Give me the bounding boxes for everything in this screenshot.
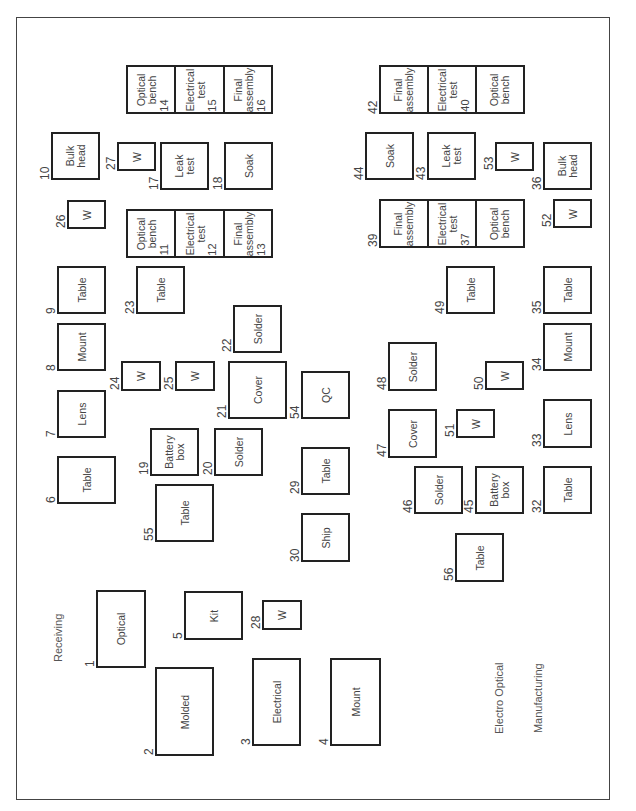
station-11[interactable]: Optical bench 11 (128, 211, 176, 256)
station-36[interactable]: Bulk head (543, 142, 592, 190)
station-20[interactable]: Solder (214, 428, 263, 476)
station-label: Kit (208, 609, 219, 621)
station-label: Electrical test (437, 202, 459, 245)
station-label: Solder (407, 351, 418, 381)
station-50[interactable]: W (485, 361, 524, 390)
station-label: Final assembly (233, 67, 255, 111)
station-27[interactable]: W (117, 142, 156, 171)
station-number-30: 30 (288, 549, 302, 562)
station-optical-bench-top[interactable]: Optical bench (477, 67, 523, 112)
station-53[interactable]: W (495, 142, 534, 171)
station-label: Optical bench (489, 73, 511, 106)
station-number-25: 25 (162, 377, 176, 390)
station-49[interactable]: Table (446, 266, 495, 314)
station-label: Molded (179, 694, 190, 728)
station-1[interactable]: Optical (96, 590, 146, 668)
station-4[interactable]: Mount (330, 658, 381, 746)
station-55[interactable]: Table (155, 484, 214, 542)
station-19[interactable]: Battery box (150, 428, 199, 476)
station-number-27: 27 (104, 157, 118, 170)
station-22[interactable]: Solder (233, 305, 282, 353)
station-label: Table (562, 477, 573, 502)
station-37[interactable]: Electrical test 37 (429, 201, 477, 246)
station-43[interactable]: Leak test (427, 132, 476, 180)
station-24[interactable]: W (121, 361, 161, 391)
station-label: W (277, 610, 288, 620)
station-optical-bench-lower[interactable]: Optical bench (477, 201, 523, 246)
station-32[interactable]: Table (543, 466, 592, 514)
station-2[interactable]: Molded (155, 667, 214, 756)
station-label: Optical (116, 613, 127, 646)
station-15[interactable]: Electrical test 15 (176, 67, 224, 112)
station-label: Soak (243, 154, 254, 178)
station-number-21: 21 (215, 405, 229, 418)
station-34[interactable]: Mount (543, 323, 592, 371)
station-3[interactable]: Electrical (252, 658, 301, 746)
station-5[interactable]: Kit (184, 591, 243, 640)
station-18[interactable]: Soak (224, 142, 273, 190)
station-17[interactable]: Leak test (160, 142, 209, 190)
station-label: Mount (76, 332, 87, 361)
station-label: Table (320, 458, 331, 483)
station-26[interactable]: W (67, 200, 106, 229)
station-label: Leak test (441, 145, 463, 168)
station-39[interactable]: Final assembly (381, 201, 429, 246)
station-52[interactable]: W (553, 199, 592, 228)
station-number-19: 19 (137, 462, 151, 475)
station-46[interactable]: Solder (414, 466, 463, 514)
station-30[interactable]: Ship (301, 513, 350, 562)
station-42[interactable]: Final assembly (381, 67, 429, 112)
station-group-40-42: Final assembly Electrical test 40 Optica… (379, 65, 525, 114)
station-number-49: 49 (433, 301, 447, 314)
receiving-label: Receiving (52, 614, 65, 662)
station-label: Solder (433, 475, 444, 505)
station-45[interactable]: Battery box (475, 466, 524, 514)
station-label: Lens (562, 412, 573, 435)
station-44[interactable]: Soak (365, 132, 414, 180)
station-number-26: 26 (54, 215, 68, 228)
station-13[interactable]: Final assembly 13 (225, 211, 271, 256)
station-number-43: 43 (414, 167, 428, 180)
station-12[interactable]: Electrical test 12 (176, 211, 224, 256)
station-label: Mount (350, 687, 361, 716)
station-label: Cover (407, 419, 418, 447)
station-54[interactable]: QC (301, 371, 350, 419)
station-28[interactable]: W (262, 600, 302, 630)
station-number-47: 47 (375, 444, 389, 457)
station-label: Table (81, 467, 92, 492)
station-label: Optical bench (489, 207, 511, 240)
station-23[interactable]: Table (136, 266, 185, 314)
station-number-4: 4 (317, 738, 331, 745)
station-number-23: 23 (123, 301, 137, 314)
station-21[interactable]: Cover (228, 361, 287, 419)
station-number-20: 20 (201, 462, 215, 475)
station-10[interactable]: Bulk head (51, 132, 100, 180)
station-number-3: 3 (239, 738, 253, 745)
station-35[interactable]: Table (543, 266, 592, 314)
station-47[interactable]: Cover (388, 409, 437, 458)
station-33[interactable]: Lens (543, 399, 592, 448)
station-9[interactable]: Table (57, 266, 106, 314)
station-48[interactable]: Solder (388, 342, 437, 391)
station-29[interactable]: Table (301, 447, 350, 495)
station-16[interactable]: Final assembly 16 (225, 67, 271, 112)
station-number: 15 (207, 99, 218, 111)
station-40[interactable]: Electrical test 40 (429, 67, 477, 112)
station-number-53: 53 (482, 157, 496, 170)
station-number-55: 55 (142, 528, 156, 541)
station-14[interactable]: Optical bench 14 (128, 67, 176, 112)
station-number-24: 24 (108, 377, 122, 390)
station-number-9: 9 (44, 307, 58, 314)
station-label: Bulk head (557, 154, 579, 177)
station-label: Electrical (271, 681, 282, 724)
station-8[interactable]: Mount (57, 323, 106, 371)
station-6[interactable]: Table (57, 456, 116, 504)
station-number-22: 22 (220, 339, 234, 352)
station-56[interactable]: Table (455, 533, 504, 582)
station-number-8: 8 (44, 364, 58, 371)
station-7[interactable]: Lens (57, 390, 106, 438)
station-label: Final assembly (233, 211, 255, 255)
station-group-11-13: Optical bench 11 Electrical test 12 Fina… (126, 209, 273, 258)
station-25[interactable]: W (175, 361, 215, 391)
station-51[interactable]: W (456, 409, 495, 438)
